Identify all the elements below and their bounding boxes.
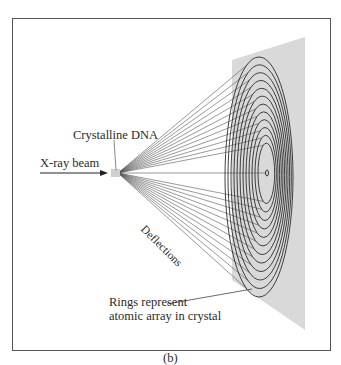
rings-label-line2: atomic array in crystal <box>109 309 221 323</box>
arrow-icon <box>100 170 108 176</box>
figure-caption: (b) <box>163 351 178 365</box>
xray-beam-label: X-ray beam <box>40 156 99 170</box>
rings-label-line1: Rings represent <box>109 295 187 309</box>
crystalline-dna-label: Crystalline DNA <box>73 128 158 142</box>
crystal-sample <box>111 169 120 177</box>
crystal-leader-line <box>114 140 116 170</box>
